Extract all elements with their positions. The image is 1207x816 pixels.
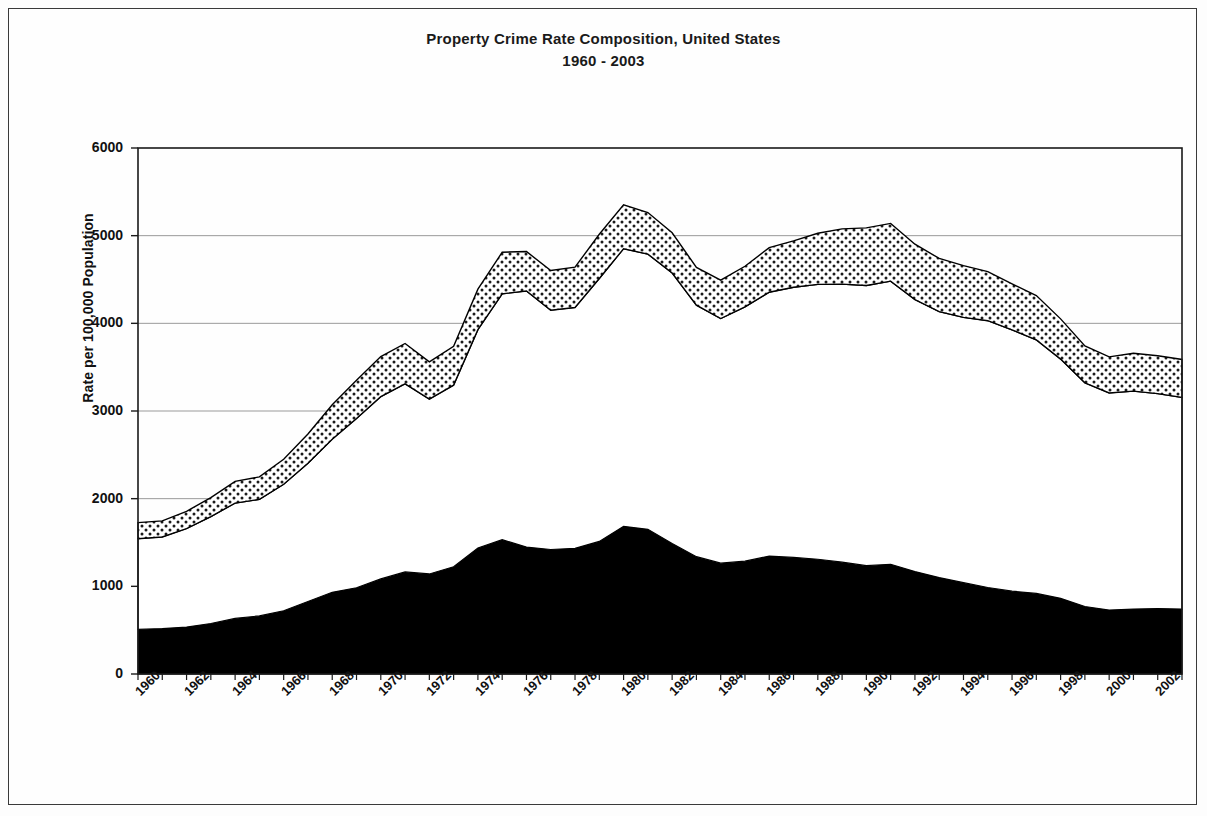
y-tick-label: 6000	[53, 139, 123, 155]
y-tick-label: 1000	[53, 577, 123, 593]
chart-page: Property Crime Rate Composition, United …	[0, 0, 1207, 816]
y-tick-label: 2000	[53, 490, 123, 506]
y-tick-label: 4000	[53, 314, 123, 330]
y-tick-label: 0	[53, 665, 123, 681]
y-tick-label: 5000	[53, 227, 123, 243]
stacked-areas	[138, 205, 1182, 674]
chart-canvas	[0, 0, 1207, 816]
y-tick-label: 3000	[53, 402, 123, 418]
plot-area: 0100020003000400050006000 19601962196419…	[0, 0, 1207, 816]
